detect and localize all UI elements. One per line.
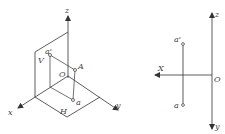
label-z-2d: z	[214, 10, 220, 19]
label-z: z	[64, 6, 70, 15]
orthographic-view: z a' X O a y	[155, 10, 221, 131]
point-a-2d	[182, 104, 185, 107]
label-y: y	[115, 101, 121, 110]
label-a-prime-2d: a'	[174, 35, 181, 44]
label-V: V	[38, 56, 45, 65]
label-O: O	[59, 70, 66, 79]
label-H: H	[59, 107, 68, 116]
label-y-2d: y	[214, 122, 220, 131]
label-X-2d: X	[157, 64, 164, 73]
point-a	[72, 99, 75, 102]
point-a-prime-2d	[182, 43, 185, 46]
label-A: A	[77, 62, 84, 71]
pictorial-view: z V a' A O a H x y	[8, 6, 121, 117]
label-a-prime: a'	[45, 47, 52, 56]
x-axis	[18, 76, 68, 108]
projection-diagram: z V a' A O a H x y z a' X O a y	[0, 0, 225, 134]
point-A	[74, 69, 77, 72]
label-x: x	[8, 108, 13, 117]
label-a-2d: a	[174, 101, 179, 110]
label-O-2d: O	[214, 75, 221, 84]
label-a: a	[76, 98, 81, 107]
h-plane	[35, 97, 100, 117]
